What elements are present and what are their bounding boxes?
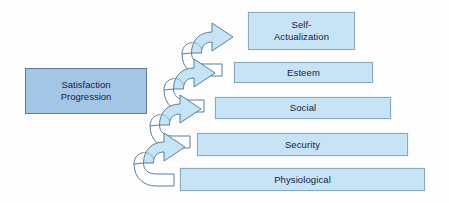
satisfaction-progression-label: Satisfaction Progression xyxy=(61,79,112,104)
arrow-to-self-actualization-icon xyxy=(178,18,236,78)
need-level-box: Social xyxy=(215,97,391,119)
need-level-box: Esteem xyxy=(234,62,373,83)
need-level-label: Social xyxy=(287,102,319,114)
need-level-label: Esteem xyxy=(284,67,323,79)
arrow-to-esteem-icon xyxy=(160,54,218,114)
need-level-box: Security xyxy=(197,133,408,156)
need-level-label: Physiological xyxy=(271,174,334,186)
need-level-box: Self- Actualization xyxy=(248,12,355,50)
satisfaction-progression-box: Satisfaction Progression xyxy=(25,68,147,114)
diagram-canvas: Satisfaction Progression Self- Actualiza… xyxy=(0,0,449,203)
need-level-box: Physiological xyxy=(180,168,425,191)
need-level-label: Security xyxy=(282,139,323,151)
arrow-to-social-icon xyxy=(146,90,204,150)
need-level-label: Self- Actualization xyxy=(271,19,332,42)
